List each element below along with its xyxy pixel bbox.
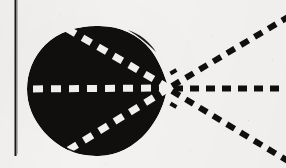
figure-canvas [0,0,286,168]
margin-rule [16,0,18,156]
diagram-svg [0,0,286,168]
